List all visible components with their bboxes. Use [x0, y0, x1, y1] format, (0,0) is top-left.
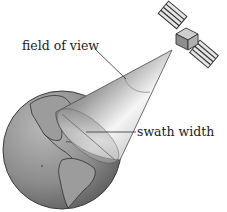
- diagram: field of view swath width: [0, 0, 227, 212]
- swath-width-label: swath width: [137, 126, 214, 139]
- field-of-view-leader: [96, 50, 126, 79]
- field-of-view-label: field of view: [22, 40, 99, 53]
